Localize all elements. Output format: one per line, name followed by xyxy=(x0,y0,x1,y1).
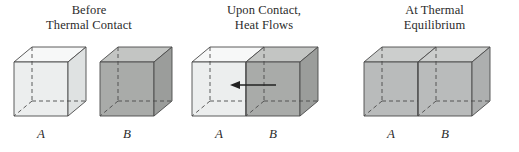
cube-a-front-face xyxy=(14,62,68,116)
cube-b xyxy=(418,47,490,116)
cube-b xyxy=(100,47,172,116)
panel-at-thermal-equilibrium: At Thermal Equilibrium xyxy=(350,0,519,152)
cube-b-front-face xyxy=(100,62,154,116)
cube-a-front-face xyxy=(364,62,418,116)
panel-title-line-1: Upon Contact, xyxy=(178,3,350,18)
cube-a xyxy=(14,47,86,116)
thermal-equilibrium-figure: Before Thermal Contact xyxy=(0,0,519,152)
panel-title-line-1: At Thermal xyxy=(350,3,519,18)
panel-3-graphic xyxy=(350,40,519,135)
cube-label-b: B xyxy=(435,126,455,142)
cube-a-front-face xyxy=(192,62,246,116)
panel-1-graphic xyxy=(0,40,178,135)
panel-title: At Thermal Equilibrium xyxy=(350,3,519,33)
cube-label-a: A xyxy=(31,126,51,142)
panel-title-line-2: Thermal Contact xyxy=(0,18,178,33)
panel-1-labels: A B xyxy=(0,126,178,146)
cube-label-b: B xyxy=(263,126,283,142)
panel-before-thermal-contact: Before Thermal Contact xyxy=(0,0,178,152)
panel-3-labels: A B xyxy=(350,126,519,146)
cube-label-b: B xyxy=(117,126,137,142)
panel-title-line-2: Heat Flows xyxy=(178,18,350,33)
cube-b-front-face xyxy=(418,62,472,116)
panel-title-line-1: Before xyxy=(0,3,178,18)
panel-2-graphic xyxy=(178,40,350,135)
panel-title: Upon Contact, Heat Flows xyxy=(178,3,350,33)
panel-title: Before Thermal Contact xyxy=(0,3,178,33)
panel-2-labels: A B xyxy=(178,126,350,146)
cube-label-a: A xyxy=(209,126,229,142)
cube-b-front-face xyxy=(246,62,300,116)
cube-label-a: A xyxy=(381,126,401,142)
panel-upon-contact-heat-flows: Upon Contact, Heat Flows xyxy=(178,0,350,152)
cube-b xyxy=(246,47,318,116)
panel-title-line-2: Equilibrium xyxy=(350,18,519,33)
